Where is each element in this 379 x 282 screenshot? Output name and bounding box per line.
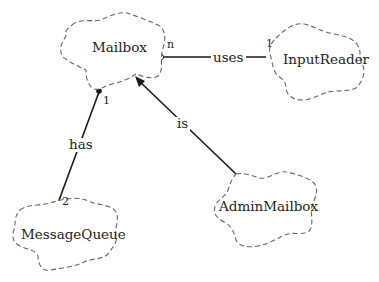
mult-has-from: 2 [62, 196, 69, 207]
edge-has-label: has [67, 138, 95, 152]
mult-has-to: 1 [103, 95, 110, 106]
node-adminmailbox-label: AdminMailbox [219, 200, 318, 214]
edge-is-label: is [175, 117, 190, 131]
node-inputreader-label: InputReader [283, 53, 369, 67]
class-diagram: Mailbox InputReader MessageQueue AdminMa… [0, 0, 379, 282]
mult-uses-from: n [167, 39, 174, 50]
edge-uses-label: uses [211, 51, 246, 65]
node-messagequeue-label: MessageQueue [21, 228, 126, 242]
mult-uses-to: 1 [266, 38, 273, 49]
node-mailbox-label: Mailbox [92, 41, 147, 55]
